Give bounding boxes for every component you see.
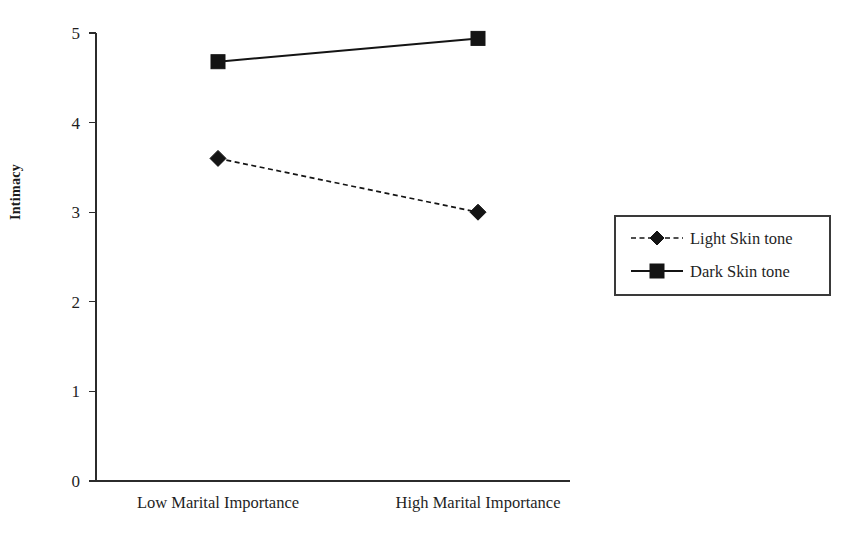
y-tick-label-5: 5	[72, 24, 81, 43]
y-tick-label-3: 3	[72, 203, 81, 222]
chart-figure: Intimacy 5 4 3 2 1 0 Low Mar	[0, 0, 854, 534]
data-point-light-low	[210, 150, 226, 166]
chart-plot-area: 5 4 3 2 1 0 Low Marital Importance High …	[0, 0, 854, 534]
series-light-line	[218, 158, 478, 212]
data-point-dark-high	[471, 31, 485, 45]
chart-legend: Light Skin tone Dark Skin tone	[615, 216, 830, 295]
x-tick-label-high: High Marital Importance	[396, 493, 561, 512]
series-dark-line	[218, 38, 478, 61]
y-axis-ticks	[89, 33, 96, 481]
y-tick-label-4: 4	[72, 114, 81, 133]
y-tick-label-0: 0	[72, 472, 81, 491]
legend-label-light: Light Skin tone	[690, 229, 793, 248]
series-dark-skin-tone	[211, 31, 485, 68]
y-tick-label-2: 2	[72, 293, 81, 312]
legend-label-dark: Dark Skin tone	[690, 262, 790, 281]
y-axis: 5 4 3 2 1 0	[72, 24, 97, 491]
data-point-dark-low	[211, 55, 225, 69]
series-light-skin-tone	[210, 150, 486, 220]
x-tick-label-low: Low Marital Importance	[137, 493, 299, 512]
x-axis: Low Marital Importance High Marital Impo…	[96, 481, 570, 512]
data-point-light-high	[470, 204, 486, 220]
y-tick-label-1: 1	[72, 382, 81, 401]
legend-item-dark-skin-tone[interactable]: Dark Skin tone	[631, 262, 790, 281]
legend-marker-square-icon	[650, 264, 664, 278]
legend-box	[615, 216, 830, 295]
